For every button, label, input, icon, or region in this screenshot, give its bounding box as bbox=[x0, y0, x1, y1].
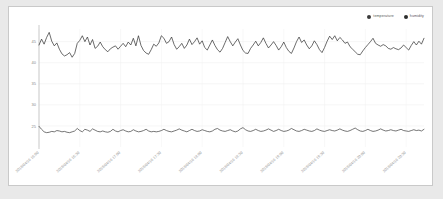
x-axis-tick-label: 2018/04/16 18:00 bbox=[178, 151, 203, 174]
y-axis-tick-label: 40 bbox=[32, 60, 37, 65]
legend-item-temperature[interactable]: temperature bbox=[367, 15, 393, 19]
x-axis-tick-label: 2018/04/16 17:30 bbox=[137, 151, 162, 174]
legend-dot-icon bbox=[367, 15, 371, 19]
x-axis-tick-label: 2018/04/16 19:00 bbox=[260, 151, 285, 174]
x-axis-tick-label: 2018/04/16 19:30 bbox=[301, 151, 326, 174]
chart-legend: temperature humidity bbox=[367, 15, 424, 19]
x-axis-tick-label: 2018/04/16 18:30 bbox=[219, 151, 244, 174]
y-axis-tick-label: 25 bbox=[32, 124, 37, 129]
legend-label-temperature: temperature bbox=[373, 15, 393, 19]
y-axis-tick-label: 45 bbox=[32, 39, 37, 44]
y-axis-tick-label: 30 bbox=[32, 102, 37, 107]
chart-card: temperature humidity 45403530252018/04/1… bbox=[8, 6, 433, 186]
series-line-humidity bbox=[39, 32, 424, 57]
line-chart-plot: 45403530252018/04/16 16:002018/04/16 16:… bbox=[9, 7, 434, 187]
legend-label-humidity: humidity bbox=[410, 15, 424, 19]
x-axis-tick-label: 2018/04/16 16:00 bbox=[15, 151, 40, 174]
x-axis-tick-label: 2018/04/16 20:00 bbox=[341, 151, 366, 174]
x-axis-tick-label: 2018/04/16 16:30 bbox=[56, 151, 81, 174]
x-axis-tick-label: 2018/04/16 20:30 bbox=[382, 151, 407, 174]
y-axis-tick-label: 35 bbox=[32, 81, 37, 86]
legend-item-humidity[interactable]: humidity bbox=[404, 15, 424, 19]
x-axis-tick-label: 2018/04/16 17:00 bbox=[97, 151, 122, 174]
legend-dot-icon bbox=[404, 15, 408, 19]
series-line-temperature bbox=[39, 126, 424, 132]
